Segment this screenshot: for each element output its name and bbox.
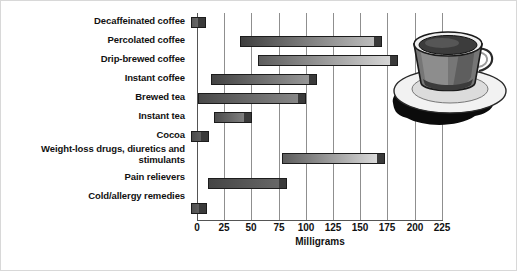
xtick-200: 200 <box>407 222 424 233</box>
bar-decaffeinated-coffee <box>191 17 206 28</box>
bar-cap <box>279 179 286 188</box>
xtick-100: 100 <box>298 222 315 233</box>
category-label-drip-brewed-coffee: Drip-brewed coffee <box>101 54 185 65</box>
xtick-75: 75 <box>273 222 284 233</box>
bar-instant-coffee <box>211 74 317 85</box>
xtick-0: 0 <box>194 222 200 233</box>
bar-cap <box>309 75 316 84</box>
category-label-decaffeinated-coffee: Decaffeinated coffee <box>94 16 185 27</box>
category-label-pain-relievers: Pain relievers <box>125 172 185 183</box>
bar-cap <box>199 204 206 213</box>
xtick-50: 50 <box>245 222 256 233</box>
bar-cap <box>374 37 381 46</box>
bar-brewed-tea <box>198 93 306 104</box>
bar-cap <box>377 154 384 163</box>
bar-instant-tea <box>214 112 252 123</box>
xtick-125: 125 <box>325 222 342 233</box>
bar-cap <box>298 94 305 103</box>
x-axis-tick-labels: 0 25 50 75 100 125 150 175 200 225 <box>197 222 457 236</box>
xtick-25: 25 <box>218 222 229 233</box>
bar-cocoa <box>191 131 209 142</box>
x-axis-line <box>197 220 443 221</box>
bar-percolated-coffee <box>240 36 382 47</box>
category-label-brewed-tea: Brewed tea <box>135 92 185 103</box>
category-label-weight-loss-drugs: Weight-loss drugs, diuretics and stimula… <box>5 144 185 165</box>
xtick-225: 225 <box>434 222 451 233</box>
xtick-150: 150 <box>352 222 369 233</box>
y-axis-line <box>197 13 198 221</box>
category-label-instant-tea: Instant tea <box>139 111 185 122</box>
chart-figure: Decaffeinated coffee Percolated coffee D… <box>0 0 517 271</box>
category-label-cold-allergy-remedies: Cold/allergy remedies <box>88 191 185 202</box>
xtick-175: 175 <box>379 222 396 233</box>
x-axis-title: Milligrams <box>197 236 443 247</box>
category-label-percolated-coffee: Percolated coffee <box>108 35 186 46</box>
category-label-instant-coffee: Instant coffee <box>125 73 185 84</box>
bar-drip-brewed-coffee <box>258 55 398 66</box>
bar-cap <box>201 132 208 141</box>
category-label-cocoa: Cocoa <box>156 130 185 141</box>
coffee-cup-icon <box>387 15 512 137</box>
bar-pain-relievers <box>208 178 287 189</box>
bar-weight-loss-drugs <box>282 153 385 164</box>
category-axis-labels: Decaffeinated coffee Percolated coffee D… <box>1 13 191 221</box>
bar-cold-allergy-remedies <box>191 203 207 214</box>
bar-cap <box>244 113 251 122</box>
bar-cap <box>198 18 205 27</box>
